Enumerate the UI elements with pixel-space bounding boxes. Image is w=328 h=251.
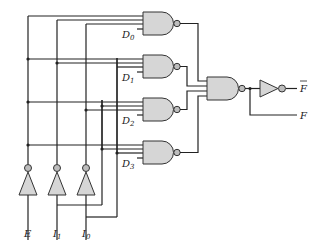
nand-gate-output (207, 77, 245, 100)
circuit-diagram: D0 D1 D2 D3 E I1 I0 F F (0, 0, 328, 251)
nand-gate-d1 (143, 55, 180, 78)
gate-d2-wires (26, 100, 143, 115)
label-e: E (23, 228, 32, 239)
gate-d1-wires (26, 57, 143, 72)
label-d1: D1 (121, 72, 135, 85)
output-inverter (260, 80, 286, 97)
label-d2: D2 (121, 115, 135, 128)
label-d0: D0 (121, 29, 135, 42)
label-f-bar: F (299, 83, 308, 94)
nand-gate-d2 (143, 98, 180, 121)
complement-wires (28, 16, 86, 164)
output-combine-wires (180, 24, 207, 153)
label-i1: I1 (52, 228, 61, 241)
label-d3: D3 (121, 158, 135, 171)
input-inverter-i1 (48, 165, 66, 196)
output-labels: F F (299, 81, 308, 121)
label-f: F (299, 110, 308, 121)
nand-gate-d0 (143, 12, 180, 35)
data-input-labels: D0 D1 D2 D3 (121, 29, 135, 171)
input-inverter-e (19, 165, 37, 196)
input-inverter-i0 (77, 165, 95, 196)
nand-gate-d3 (143, 141, 180, 164)
